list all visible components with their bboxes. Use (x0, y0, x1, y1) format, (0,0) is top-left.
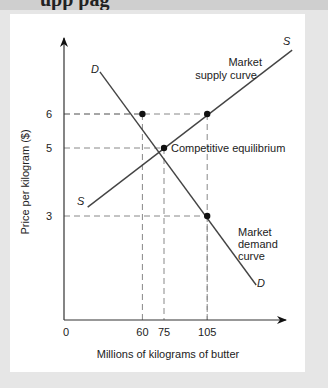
demand-label-top: D (91, 63, 99, 75)
demand-curve (100, 72, 256, 285)
supply-title-line2: supply curve (195, 69, 257, 81)
x-tick-label-105: 105 (198, 326, 216, 338)
supply-label-top: S (283, 35, 291, 47)
point-0 (139, 111, 145, 117)
supply-label-bottom: S (77, 195, 85, 207)
demand-title-line1: Market (238, 226, 272, 238)
points (139, 111, 210, 219)
y-tick-label-3: 3 (46, 210, 52, 222)
x-tick-label-75: 75 (158, 326, 170, 338)
x-tick-label-60: 60 (136, 326, 148, 338)
supply-title-line1: Market (228, 56, 262, 68)
supply-curve (88, 50, 292, 207)
supply-demand-chart: 6075105653 0 Millions of kilograms of bu… (0, 0, 328, 388)
y-tick-label-5: 5 (46, 142, 52, 154)
point-1 (204, 111, 210, 117)
y-axis-label: Price per kilogram ($) (19, 129, 31, 234)
demand-title-line2: demand (238, 238, 278, 250)
demand-label-bottom: D (257, 277, 265, 289)
y-tick-label-6: 6 (46, 108, 52, 120)
point-2 (161, 145, 167, 151)
demand-title-line3: curve (238, 250, 265, 262)
x-axis-label: Millions of kilograms of butter (97, 348, 240, 360)
equilibrium-label: Competitive equilibrium (171, 142, 285, 154)
origin-label: 0 (63, 326, 69, 338)
point-3 (204, 213, 210, 219)
